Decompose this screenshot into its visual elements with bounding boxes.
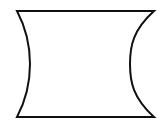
figure-canvas	[0, 0, 163, 127]
concave-quadrilateral-svg	[0, 0, 163, 127]
